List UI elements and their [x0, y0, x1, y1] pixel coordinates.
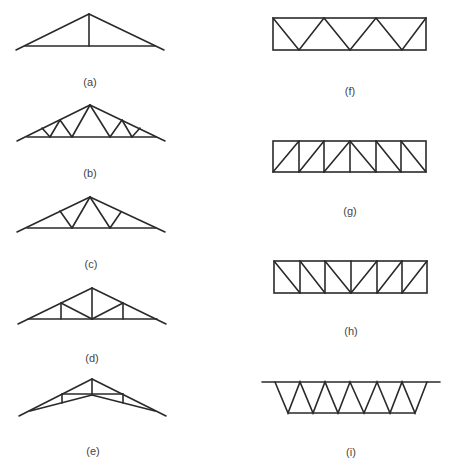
- label-b: (b): [83, 167, 96, 179]
- truss-c: [17, 197, 165, 232]
- label-f: (f): [345, 85, 355, 97]
- label-h: (h): [344, 325, 357, 337]
- truss-e: [19, 379, 166, 416]
- truss-d: [18, 288, 166, 324]
- truss-a: [16, 14, 164, 50]
- label-e: (e): [86, 445, 99, 457]
- label-i: (i): [346, 446, 356, 458]
- truss-g: [273, 141, 426, 172]
- truss-diagram: [0, 0, 452, 465]
- truss-i: [262, 382, 440, 413]
- truss-b: [17, 105, 165, 141]
- label-d: (d): [85, 352, 98, 364]
- label-g: (g): [343, 205, 356, 217]
- truss-f: [273, 18, 426, 50]
- label-c: (c): [85, 258, 98, 270]
- label-a: (a): [83, 76, 96, 88]
- truss-h: [274, 261, 427, 293]
